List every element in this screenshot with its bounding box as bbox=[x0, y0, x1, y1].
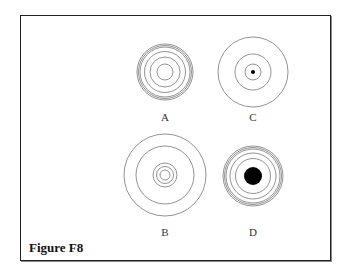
figure-caption: Figure F8 bbox=[29, 240, 83, 256]
ring bbox=[157, 167, 174, 184]
ring bbox=[160, 170, 170, 180]
panel-label-a: A bbox=[161, 111, 169, 123]
concentric-circles-diagram bbox=[0, 0, 344, 270]
filled-core bbox=[251, 70, 255, 74]
panel-label-b: B bbox=[161, 226, 168, 238]
ring bbox=[157, 64, 173, 80]
panel-d-circles bbox=[223, 146, 283, 206]
panel-a-circles bbox=[137, 44, 193, 100]
panel-label-c: C bbox=[249, 111, 256, 123]
panel-b-circles bbox=[124, 134, 206, 216]
ring bbox=[150, 57, 180, 87]
ring bbox=[140, 47, 190, 97]
filled-core bbox=[244, 167, 262, 185]
ring bbox=[139, 46, 192, 99]
panel-c-circles bbox=[218, 37, 288, 107]
panel-label-d: D bbox=[249, 226, 257, 238]
ring bbox=[145, 52, 186, 93]
ring bbox=[137, 44, 193, 100]
ring bbox=[136, 146, 194, 204]
